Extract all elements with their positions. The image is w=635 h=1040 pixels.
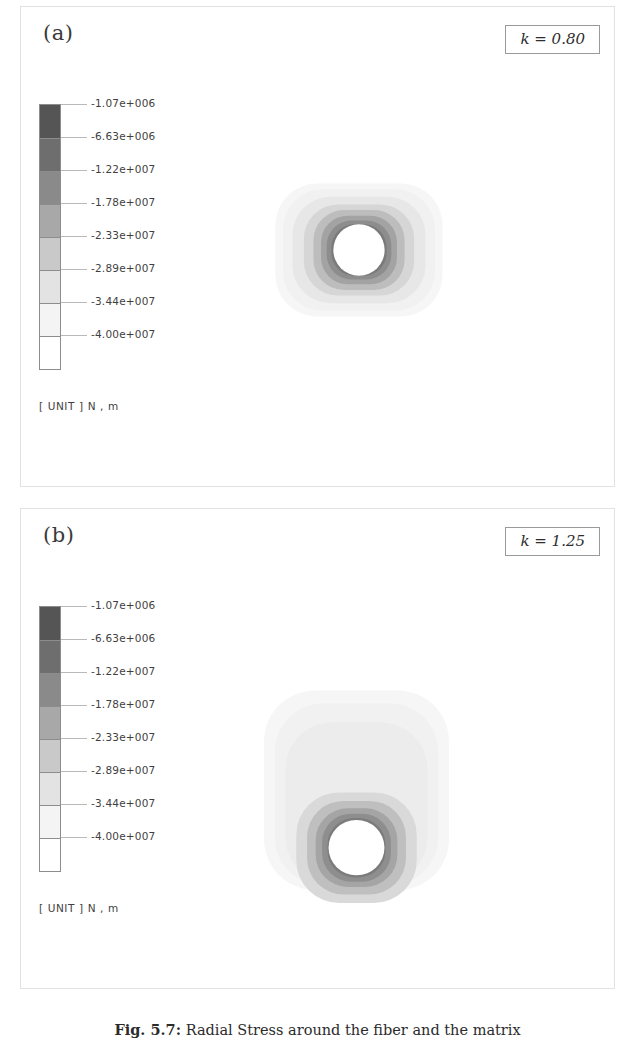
figure-panel-b: (b) k = 1.25 -1.07e+006-6.63e+006-1.22e+… bbox=[20, 508, 615, 989]
figure-caption-number: Fig. 5.7: bbox=[114, 1021, 181, 1038]
colorbar-tick-label-3: -1.78e+007 bbox=[91, 698, 155, 710]
panel-label-a: (a) bbox=[43, 21, 73, 45]
colorbar-tick-label-2: -1.22e+007 bbox=[91, 163, 155, 175]
contour-plot-a bbox=[264, 155, 454, 345]
colorbar-tick-leader-1 bbox=[61, 639, 87, 640]
contour-field-a bbox=[264, 155, 454, 345]
colorbar-swatches-a bbox=[39, 104, 61, 370]
figure-caption-text: Radial Stress around the fiber and the m… bbox=[186, 1022, 521, 1038]
colorbar-tick-label-6: -3.44e+007 bbox=[91, 797, 155, 809]
colorbar-band-2 bbox=[40, 171, 60, 204]
colorbar-tick-leader-3 bbox=[61, 705, 87, 706]
k-parameter-box-b: k = 1.25 bbox=[505, 527, 600, 556]
colorbar-tick-label-1: -6.63e+006 bbox=[91, 632, 155, 644]
colorbar-tick-label-0: -1.07e+006 bbox=[91, 97, 155, 109]
colorbar-tick-label-5: -2.89e+007 bbox=[91, 764, 155, 776]
colorbar-band-5 bbox=[40, 270, 60, 303]
colorbar-tick-label-3: -1.78e+007 bbox=[91, 196, 155, 208]
colorbar-tick-leader-0 bbox=[61, 104, 87, 105]
colorbar-tick-label-2: -1.22e+007 bbox=[91, 665, 155, 677]
colorbar-tick-leader-5 bbox=[61, 269, 87, 270]
colorbar-tick-label-7: -4.00e+007 bbox=[91, 830, 155, 842]
colorbar-band-0 bbox=[40, 105, 60, 138]
colorbar-band-1 bbox=[40, 640, 60, 673]
figure-panel-a: (a) k = 0.80 -1.07e+006-6.63e+006-1.22e+… bbox=[20, 6, 615, 487]
colorbar-tick-leader-4 bbox=[61, 738, 87, 739]
colorbar-tick-label-4: -2.33e+007 bbox=[91, 731, 155, 743]
colorbar-tick-leader-4 bbox=[61, 236, 87, 237]
colorbar-tick-label-1: -6.63e+006 bbox=[91, 130, 155, 142]
figure-caption: Fig. 5.7: Radial Stress around the fiber… bbox=[0, 1021, 635, 1040]
colorbar-tick-leader-2 bbox=[61, 170, 87, 171]
colorbar-band-5 bbox=[40, 772, 60, 805]
colorbar-band-7 bbox=[40, 838, 60, 871]
colorbar-band-3 bbox=[40, 706, 60, 739]
colorbar-band-4 bbox=[40, 739, 60, 772]
k-parameter-box-a: k = 0.80 bbox=[505, 25, 600, 54]
colorbar-tick-leader-7 bbox=[61, 335, 87, 336]
colorbar-band-7 bbox=[40, 336, 60, 369]
colorbar-tick-leader-6 bbox=[61, 804, 87, 805]
colorbar-tick-leader-3 bbox=[61, 203, 87, 204]
colorbar-tick-leader-2 bbox=[61, 672, 87, 673]
colorbar-band-2 bbox=[40, 673, 60, 706]
unit-label-b: [ UNIT ] N , m bbox=[39, 902, 119, 914]
colorbar-band-0 bbox=[40, 607, 60, 640]
colorbar-band-3 bbox=[40, 204, 60, 237]
colorbar-tick-label-7: -4.00e+007 bbox=[91, 328, 155, 340]
unit-label-a: [ UNIT ] N , m bbox=[39, 400, 119, 412]
colorbar-band-6 bbox=[40, 805, 60, 838]
panel-label-b: (b) bbox=[43, 523, 74, 547]
colorbar-band-4 bbox=[40, 237, 60, 270]
colorbar-tick-leader-7 bbox=[61, 837, 87, 838]
colorbar-tick-label-0: -1.07e+006 bbox=[91, 599, 155, 611]
colorbar-tick-leader-5 bbox=[61, 771, 87, 772]
contour-plot-b bbox=[249, 667, 464, 922]
colorbar-tick-label-6: -3.44e+007 bbox=[91, 295, 155, 307]
colorbar-band-1 bbox=[40, 138, 60, 171]
colorbar-band-6 bbox=[40, 303, 60, 336]
colorbar-tick-leader-6 bbox=[61, 302, 87, 303]
contour-field-b bbox=[249, 667, 464, 922]
colorbar-tick-label-5: -2.89e+007 bbox=[91, 262, 155, 274]
colorbar-tick-leader-1 bbox=[61, 137, 87, 138]
colorbar-swatches-b bbox=[39, 606, 61, 872]
figure-sheet: (a) k = 0.80 -1.07e+006-6.63e+006-1.22e+… bbox=[0, 0, 635, 1040]
colorbar-tick-leader-0 bbox=[61, 606, 87, 607]
colorbar-tick-label-4: -2.33e+007 bbox=[91, 229, 155, 241]
